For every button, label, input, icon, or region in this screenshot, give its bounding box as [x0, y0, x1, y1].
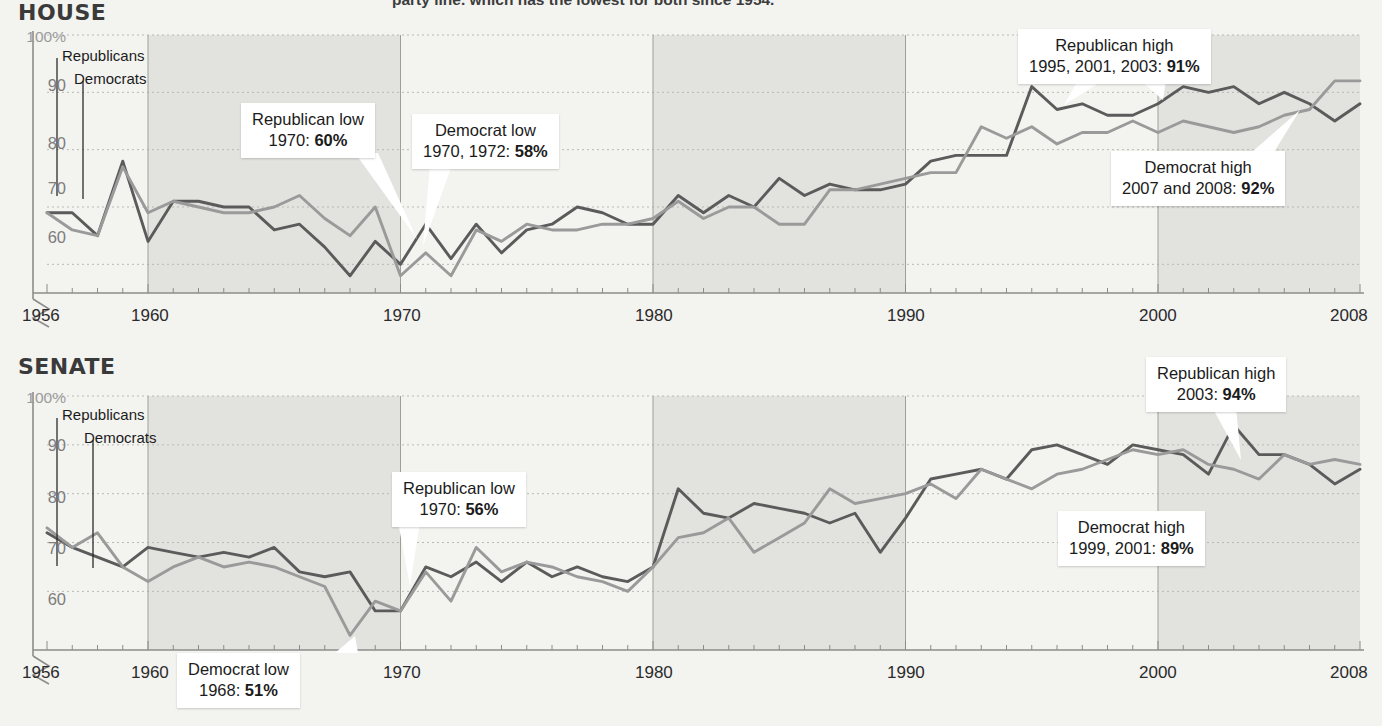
house-y-tick-90: 90 [14, 76, 66, 95]
shaded-band [653, 396, 906, 650]
house-x-tick-1990: 1990 [887, 306, 925, 326]
callout-pointer [423, 165, 452, 246]
shaded-band [148, 396, 401, 650]
callout-detail: 2007 and 2008: 92% [1122, 178, 1274, 199]
senate-y-tick-80: 80 [14, 488, 66, 507]
callout-detail: 1995, 2001, 2003: 91% [1029, 56, 1200, 77]
senate-x-tick-1970: 1970 [383, 663, 421, 683]
house-y-tick-60: 60 [14, 228, 66, 247]
callout-title: Republican low [403, 478, 515, 499]
house-x-tick-2008: 2008 [1330, 306, 1368, 326]
senate-callout-republican-low: Republican low 1970: 56% [392, 472, 526, 527]
senate-y-tick-60: 60 [14, 590, 66, 609]
callout-detail: 1970, 1972: 58% [423, 141, 548, 162]
senate-x-tick-2008: 2008 [1330, 663, 1368, 683]
house-y-tick-80: 80 [14, 134, 66, 153]
house-y-tick-70: 70 [14, 179, 66, 198]
house-legend-republicans: Republicans [62, 47, 145, 64]
callout-detail: 1970: 60% [252, 130, 364, 151]
house-callout-republican-high: Republican high 1995, 2001, 2003: 91% [1018, 29, 1211, 84]
senate-x-tick-1956: 1956 [22, 663, 60, 683]
callout-title: Republican high [1157, 363, 1275, 384]
senate-y-tick-90: 90 [14, 436, 66, 455]
senate-y-tick-100: 100% [14, 389, 66, 407]
shaded-band [148, 35, 401, 293]
shaded-band [653, 35, 906, 293]
cropped-headline-strip: party line. which has the lowest for bot… [0, 0, 1382, 11]
house-y-tick-100: 100% [14, 28, 66, 46]
house-callout-republican-low: Republican low 1970: 60% [241, 103, 375, 158]
house-x-tick-1960: 1960 [131, 306, 169, 326]
house-callout-democrat-low: Democrat low 1970, 1972: 58% [412, 114, 559, 169]
senate-panel: SENATE 100% 90 80 70 60 1956 1960 1970 1… [0, 348, 1382, 726]
house-callout-democrat-high: Democrat high 2007 and 2008: 92% [1111, 151, 1285, 206]
senate-x-tick-2000: 2000 [1139, 663, 1177, 683]
house-legend-democrats: Democrats [74, 70, 147, 87]
house-panel: HOUSE 100% 90 80 70 60 1956 1960 1970 19… [0, 0, 1382, 345]
senate-callout-republican-high: Republican high 2003: 94% [1146, 357, 1286, 412]
callout-title: Democrat high [1069, 517, 1194, 538]
senate-legend-democrats: Democrats [84, 429, 157, 446]
senate-x-tick-1980: 1980 [635, 663, 673, 683]
cropped-headline-text: party line. which has the lowest for bot… [392, 0, 774, 9]
callout-detail: 1968: 51% [188, 680, 289, 701]
house-x-tick-1980: 1980 [635, 306, 673, 326]
senate-x-tick-1990: 1990 [887, 663, 925, 683]
callout-detail: 1970: 56% [403, 499, 515, 520]
callout-title: Democrat high [1122, 157, 1274, 178]
callout-pointer [398, 522, 420, 586]
senate-legend-republicans: Republicans [62, 406, 145, 423]
chart-page: party line. which has the lowest for bot… [0, 0, 1382, 726]
callout-title: Democrat low [423, 120, 548, 141]
house-x-tick-2000: 2000 [1139, 306, 1177, 326]
callout-title: Republican low [252, 109, 364, 130]
callout-title: Democrat low [188, 659, 289, 680]
callout-detail: 1999, 2001: 89% [1069, 538, 1194, 559]
house-x-tick-1970: 1970 [383, 306, 421, 326]
senate-callout-democrat-low: Democrat low 1968: 51% [177, 653, 300, 708]
senate-y-tick-70: 70 [14, 539, 66, 558]
callout-title: Republican high [1029, 35, 1200, 56]
senate-callout-democrat-high: Democrat high 1999, 2001: 89% [1058, 511, 1205, 566]
callout-detail: 2003: 94% [1157, 384, 1275, 405]
senate-x-tick-1960: 1960 [131, 663, 169, 683]
house-x-tick-1956: 1956 [22, 306, 60, 326]
